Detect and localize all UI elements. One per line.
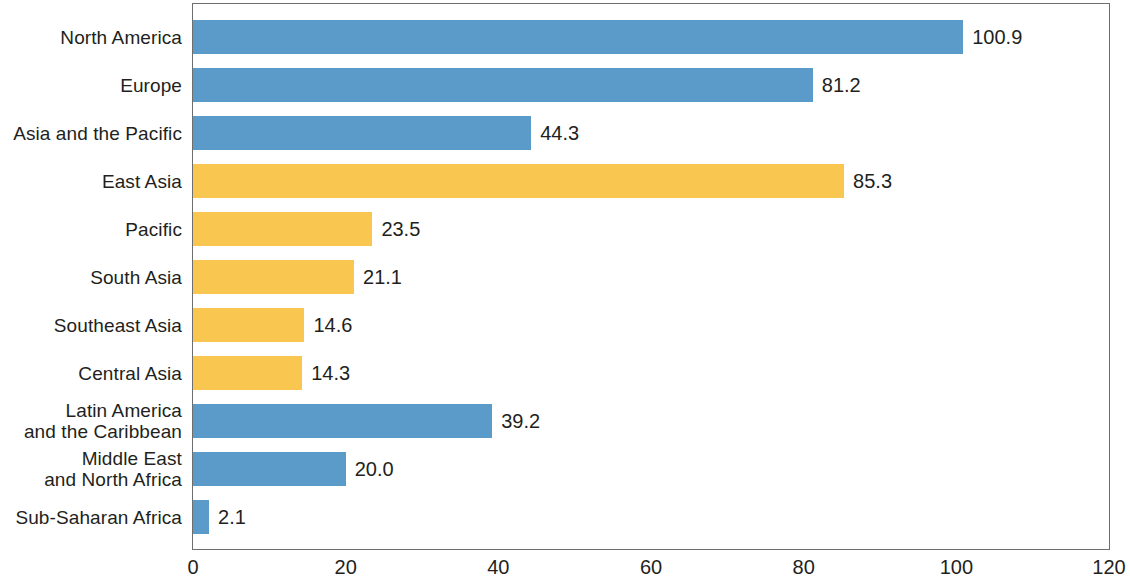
x-tick-label: 60 (640, 556, 662, 578)
category-label: South Asia (90, 267, 182, 288)
x-tick-label: 20 (335, 556, 357, 578)
bar-row: Sub-Saharan Africa2.1 (0, 500, 1130, 534)
x-tick-label: 80 (793, 556, 815, 578)
x-tick-label: 120 (1092, 556, 1125, 578)
x-axis: 020406080100120 (192, 550, 1110, 586)
bar[interactable] (193, 164, 844, 198)
bar-row: South Asia21.1 (0, 260, 1130, 294)
category-label: North America (60, 27, 182, 48)
bar[interactable] (193, 68, 813, 102)
value-label: 39.2 (501, 411, 540, 431)
bar[interactable] (193, 20, 963, 54)
value-label: 20.0 (355, 459, 394, 479)
bar[interactable] (193, 212, 372, 246)
bar-row: Pacific23.5 (0, 212, 1130, 246)
x-tick-label: 0 (187, 556, 198, 578)
value-label: 2.1 (218, 507, 246, 527)
bar[interactable] (193, 404, 492, 438)
bar[interactable] (193, 452, 346, 486)
x-tick-label: 40 (487, 556, 509, 578)
bar-row: Asia and the Pacific44.3 (0, 116, 1130, 150)
bar-row: Middle East and North Africa20.0 (0, 452, 1130, 486)
value-label: 21.1 (363, 267, 402, 287)
bar[interactable] (193, 116, 531, 150)
category-label: Central Asia (78, 363, 182, 384)
bar-row: Europe81.2 (0, 68, 1130, 102)
bar-row: Latin America and the Caribbean39.2 (0, 404, 1130, 438)
category-label: Latin America and the Caribbean (24, 400, 182, 442)
bar-chart: North America100.9Europe81.2Asia and the… (0, 0, 1130, 586)
value-label: 100.9 (972, 27, 1022, 47)
bar[interactable] (193, 260, 354, 294)
category-label: Pacific (125, 219, 182, 240)
value-label: 85.3 (853, 171, 892, 191)
bar-row: Central Asia14.3 (0, 356, 1130, 390)
bar-row: North America100.9 (0, 20, 1130, 54)
category-label: Sub-Saharan Africa (15, 507, 182, 528)
value-label: 14.6 (313, 315, 352, 335)
category-label: Asia and the Pacific (13, 123, 182, 144)
category-label: Middle East and North Africa (44, 448, 182, 490)
bar[interactable] (193, 356, 302, 390)
x-tick-label: 100 (940, 556, 973, 578)
value-label: 81.2 (822, 75, 861, 95)
bar[interactable] (193, 308, 304, 342)
bar-row: East Asia85.3 (0, 164, 1130, 198)
value-label: 14.3 (311, 363, 350, 383)
value-label: 23.5 (381, 219, 420, 239)
category-label: East Asia (102, 171, 182, 192)
value-label: 44.3 (540, 123, 579, 143)
category-label: Southeast Asia (54, 315, 182, 336)
bar[interactable] (193, 500, 209, 534)
category-label: Europe (120, 75, 182, 96)
bar-row: Southeast Asia14.6 (0, 308, 1130, 342)
